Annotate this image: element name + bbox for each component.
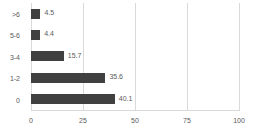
x-tick-label: 75 (183, 116, 191, 126)
category-label: 5-6 (10, 30, 20, 42)
bar-value-label: 40.1 (119, 93, 133, 105)
plot-area: 4.5 4.4 15.7 35.6 40.1 (31, 3, 240, 110)
bar-row: 15.7 (31, 46, 240, 67)
category-label: 0 (16, 95, 20, 107)
bar (31, 51, 64, 61)
bar (31, 73, 105, 83)
bar (31, 94, 115, 104)
bar (31, 30, 40, 40)
x-tick-label: 100 (233, 116, 245, 126)
bar-value-label: 35.6 (109, 71, 123, 83)
category-label: 1-2 (10, 73, 20, 85)
category-label: 3-4 (10, 52, 20, 64)
bar-row: 40.1 (31, 89, 240, 110)
bar-value-label: 15.7 (68, 50, 82, 62)
x-tick-label: 50 (131, 116, 139, 126)
x-tick-label: 25 (79, 116, 87, 126)
bar-value-label: 4.5 (44, 7, 54, 19)
bar-row: 4.5 (31, 3, 240, 24)
bar (31, 9, 40, 19)
category-label: >6 (12, 9, 20, 21)
x-tick-label: 0 (29, 116, 33, 126)
x-axis-line (31, 110, 240, 111)
bar-row: 4.4 (31, 24, 240, 45)
bar-chart: 4.5 4.4 15.7 35.6 40.1 >6 5-6 3-4 1-2 0 … (0, 0, 256, 136)
bar-row: 35.6 (31, 67, 240, 88)
bar-value-label: 4.4 (44, 28, 54, 40)
